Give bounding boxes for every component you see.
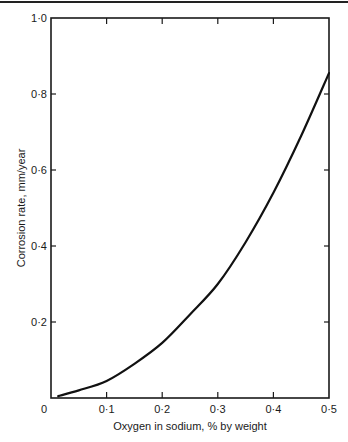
x-axis-label: Oxygen in sodium, % by weight <box>113 420 266 432</box>
y-axis-label: Corrosion rate, mm/year <box>15 148 27 267</box>
y-tick-label: 1·0 <box>31 12 47 24</box>
axis-ticks <box>51 18 329 398</box>
x-tick-label: 0·4 <box>265 403 281 415</box>
y-tick-labels: 0·20·40·60·81·0 <box>31 12 47 328</box>
y-tick-label: 0·4 <box>31 240 47 252</box>
x-tick-label: 0·2 <box>154 403 170 415</box>
x-tick-label: 0 <box>41 403 47 415</box>
y-tick-label: 0·6 <box>31 164 47 176</box>
corrosion-chart: 00·10·20·30·40·5 0·20·40·60·81·0 Oxygen … <box>0 0 348 442</box>
x-tick-label: 0·1 <box>99 403 115 415</box>
x-tick-labels: 00·10·20·30·40·5 <box>41 403 337 415</box>
y-tick-label: 0·8 <box>31 88 47 100</box>
x-tick-label: 0·3 <box>210 403 226 415</box>
data-curve <box>58 73 329 396</box>
y-tick-label: 0·2 <box>31 316 47 328</box>
x-tick-label: 0·5 <box>321 403 337 415</box>
plot-frame <box>51 18 329 398</box>
